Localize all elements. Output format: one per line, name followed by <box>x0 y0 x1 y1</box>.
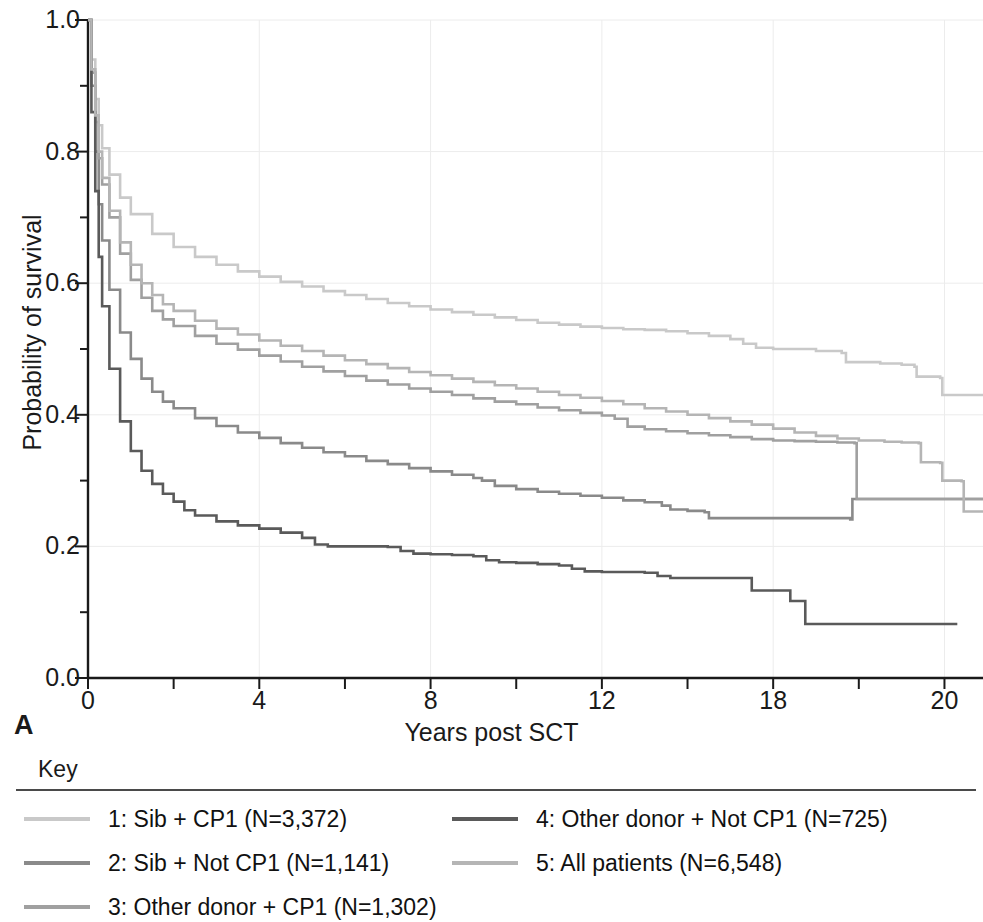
x-tick-label: 8 <box>424 686 438 714</box>
legend-item-label: 2: Sib + Not CP1 (N=1,141) <box>108 850 389 876</box>
survival-figure: 0.00.20.40.60.81.0 048121820 Probability… <box>0 0 983 922</box>
legend-title: Key <box>38 756 78 782</box>
y-tick-label: 1.0 <box>22 7 80 32</box>
survival-curves <box>88 20 983 624</box>
panel-label: A <box>14 710 34 741</box>
legend-swatch-line-icon <box>452 861 518 865</box>
legend-item-label: 5: All patients (N=6,548) <box>536 850 782 876</box>
legend-item: 1: Sib + CP1 (N=3,372) <box>24 800 347 838</box>
legend-item: 5: All patients (N=6,548) <box>452 844 782 882</box>
legend-swatch-line-icon <box>24 905 90 909</box>
survival-curve-2 <box>88 20 983 519</box>
x-tick-label: 20 <box>931 686 959 714</box>
legend-item: 2: Sib + Not CP1 (N=1,141) <box>24 844 389 882</box>
legend-swatch-line-icon <box>24 861 90 865</box>
legend-items: 1: Sib + CP1 (N=3,372)2: Sib + Not CP1 (… <box>0 800 983 920</box>
y-axis-title: Probability of survival <box>18 173 47 493</box>
survival-curves-svg <box>0 0 983 700</box>
legend-item-label: 4: Other donor + Not CP1 (N=725) <box>536 806 888 832</box>
legend-swatch-line-icon <box>24 817 90 821</box>
legend-item: 4: Other donor + Not CP1 (N=725) <box>452 800 888 838</box>
legend-item-label: 3: Other donor + CP1 (N=1,302) <box>108 894 437 920</box>
gridlines <box>88 20 983 678</box>
y-tick-label: 0.2 <box>22 533 80 558</box>
x-tick-label: 4 <box>252 686 266 714</box>
survival-curve-1 <box>88 20 983 395</box>
legend-item-label: 1: Sib + CP1 (N=3,372) <box>108 806 347 832</box>
survival-curve-4 <box>88 20 957 624</box>
axis-lines <box>88 20 983 678</box>
x-tick-label: 12 <box>588 686 616 714</box>
legend-divider <box>16 789 976 791</box>
legend-swatch-line-icon <box>452 817 518 821</box>
axis-ticks <box>75 20 944 689</box>
y-tick-label: 0.8 <box>22 139 80 164</box>
legend-key: Key 1: Sib + CP1 (N=3,372)2: Sib + Not C… <box>0 756 983 922</box>
legend-item: 3: Other donor + CP1 (N=1,302) <box>24 888 437 922</box>
x-axis-title: Years post SCT <box>0 718 983 747</box>
x-tick-label: 0 <box>81 686 95 714</box>
x-tick-label: 18 <box>759 686 787 714</box>
plot-area: 0.00.20.40.60.81.0 048121820 Probability… <box>0 0 983 700</box>
